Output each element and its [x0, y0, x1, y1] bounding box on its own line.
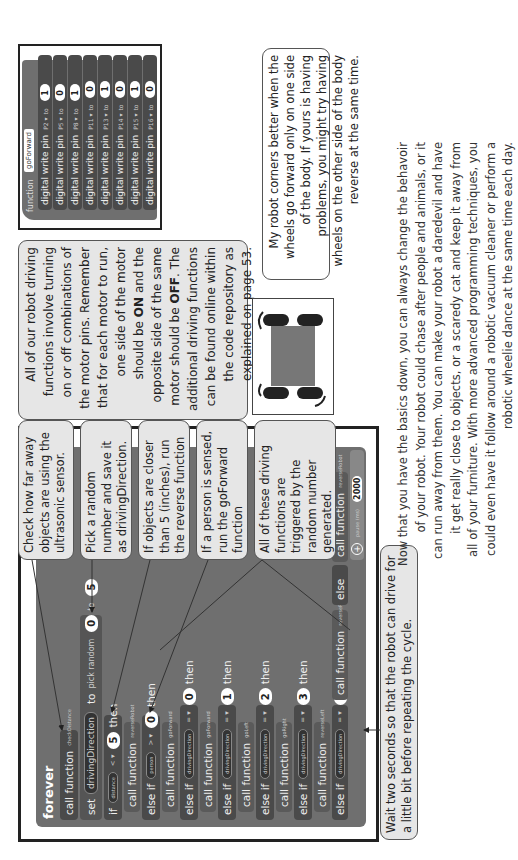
digital-write-list: digital write pin P2 ▾ to 1 digital writ… — [38, 55, 158, 210]
pause-ms-input[interactable]: 2000 — [352, 476, 362, 502]
variable-dropdown[interactable]: drivingDirection — [84, 712, 98, 794]
rotated-book-page: forever call function checkDistance set … — [0, 0, 518, 860]
call-go-left-block[interactable]: call function goLeft — [238, 722, 254, 812]
callout-person-sensed: If a person is sensed, run the goForward… — [196, 420, 248, 560]
call-check-distance-block[interactable]: call function checkDistance — [60, 730, 78, 820]
digital-write-row[interactable]: digital write pin P16 ▾ to 0 — [143, 55, 157, 210]
random-to-input[interactable]: 5 — [85, 579, 98, 596]
random-from-input[interactable]: 0 — [85, 615, 98, 632]
function-name-input[interactable]: goForward — [24, 129, 34, 172]
callout-pick-random: Pick a random number and save it as driv… — [80, 420, 132, 560]
digital-write-row[interactable]: digital write pin P15 ▾ to 1 — [128, 55, 142, 210]
plus-circle-icon[interactable]: + — [351, 543, 363, 555]
function-keyword: function — [26, 179, 35, 212]
else-if-direction-1-block[interactable]: else if drivingDirection = ▾ 1 then — [218, 705, 236, 820]
robot-top-view-icon — [253, 299, 333, 414]
robot-turn-diagram — [252, 298, 334, 415]
else-block[interactable]: else — [332, 565, 348, 605]
call-reverse-robot-block[interactable]: call function reverseRobot — [124, 722, 140, 812]
callout-objects-closer: If objects are closer than 5 (inches), r… — [138, 420, 190, 560]
call-reverse-left-block[interactable]: call function reverseLeft — [314, 722, 330, 812]
digital-write-row[interactable]: digital write pin P2 ▾ to 1 — [38, 55, 52, 210]
digital-write-row[interactable]: digital write pin P14 ▾ to 0 — [113, 55, 127, 210]
else-if-direction-3-block[interactable]: else if drivingDirection = ▾ 3 then — [294, 705, 312, 820]
else-if-person-block[interactable]: else if person > ▾ 0 then — [142, 715, 160, 820]
digital-write-row[interactable]: digital write pin P5 ▾ to 0 — [53, 55, 67, 210]
digital-write-row[interactable]: digital write pin P13 ▾ to 1 — [98, 55, 112, 210]
if-distance-block[interactable]: if distance < ▾ 5 then — [104, 715, 122, 820]
forever-label: forever — [41, 765, 56, 819]
digital-write-row[interactable]: digital write pin P11 ▾ to 0 — [83, 55, 97, 210]
else-if-direction-2-block[interactable]: else if drivingDirection = ▾ 2 then — [256, 705, 274, 820]
body-paragraph: Now that you have the basics down, you c… — [395, 142, 518, 842]
callout-check-distance: Check how far away objects are using the… — [18, 420, 74, 560]
else-if-direction-4-block[interactable]: else if drivingDirection = ▾ 4 then — [332, 705, 348, 820]
else-if-direction-0-block[interactable]: else if drivingDirection = ▾ 0 then — [180, 705, 198, 820]
motor-pins-note: All of our robot driving functions invol… — [18, 240, 248, 420]
call-go-forward-block[interactable]: call function goForward — [162, 722, 178, 812]
set-driving-direction-block[interactable]: set drivingDirection to pick random 0 to… — [80, 615, 102, 820]
digital-write-row[interactable]: digital write pin P8 ▾ to 1 — [68, 55, 82, 210]
call-go-forward-block-2[interactable]: call function goForward — [200, 722, 216, 812]
callout-driving-functions: All of these driving functions are trigg… — [254, 420, 336, 560]
cornering-tip-note: My robot corners better when the wheels … — [262, 48, 330, 280]
pause-block[interactable]: + pause (ms) 2000 — [350, 450, 364, 560]
call-go-right-block[interactable]: call function goRight — [276, 722, 292, 812]
call-reverse-right-block[interactable]: call function reverseRight — [332, 610, 348, 700]
